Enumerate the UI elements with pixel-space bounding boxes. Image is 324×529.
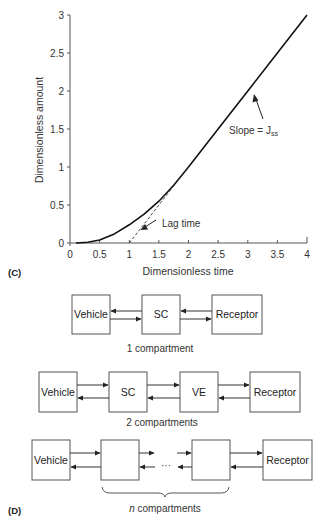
figure-canvas: 0 0.5 1 1.5 2 2.5 3 0 0.5 1 1.5 2 2.5 <box>0 0 324 529</box>
compartment-n-box <box>192 440 230 480</box>
sc-label: SC <box>154 308 169 320</box>
lag-time-label: Lag time <box>162 218 201 229</box>
lag-time-asymptote <box>129 167 188 243</box>
vehicle-label: Vehicle <box>41 386 75 398</box>
slope-label: Slope = Jss <box>229 125 278 137</box>
slope-annotation: Slope = Jss <box>229 94 278 137</box>
y-tick-label: 0.5 <box>50 200 64 211</box>
compartment-1-box <box>101 440 139 480</box>
caption-2-compartments: 2 compartments <box>126 417 198 428</box>
x-tick-label: 2.5 <box>211 249 225 260</box>
x-tick-label: 0.5 <box>93 249 107 260</box>
y-tick-label: 3 <box>58 10 64 21</box>
diagram-row-1-compartment: Vehicle SC Receptor 1 compartment <box>72 295 262 354</box>
lag-time-annotation: Lag time <box>141 218 201 230</box>
ve-label: VE <box>192 386 206 398</box>
x-tick-label: 2 <box>186 249 192 260</box>
y-tick-label: 2.5 <box>50 48 64 59</box>
panel-label-d: (D) <box>8 505 21 516</box>
y-tick-label: 0 <box>58 238 64 249</box>
sc-label: SC <box>121 386 136 398</box>
x-tick-labels: 0 0.5 1 1.5 2 2.5 3 3.5 4 <box>67 249 310 260</box>
vehicle-label: Vehicle <box>34 454 68 466</box>
x-tick-label: 4 <box>304 249 310 260</box>
brace <box>102 487 229 497</box>
y-tick-label: 1.5 <box>50 124 64 135</box>
receptor-label: Receptor <box>266 454 309 466</box>
x-axis-title: Dimensionless time <box>142 265 233 277</box>
x-tick-label: 3 <box>245 249 251 260</box>
diagram-row-n-compartments: Vehicle Receptor ··· n compartments <box>32 440 312 514</box>
x-tick-label: 1 <box>127 249 133 260</box>
receptor-label: Receptor <box>254 386 297 398</box>
x-tick-label: 0 <box>67 249 73 260</box>
receptor-label: Receptor <box>216 308 259 320</box>
panel-label-c: (C) <box>8 267 21 278</box>
ellipsis: ··· <box>161 460 171 471</box>
y-tick-labels: 0 0.5 1 1.5 2 2.5 3 <box>50 10 64 249</box>
chart-panel-c: 0 0.5 1 1.5 2 2.5 3 0 0.5 1 1.5 2 2.5 <box>8 10 310 278</box>
vehicle-label: Vehicle <box>74 308 108 320</box>
caption-n-compartments: n compartments <box>129 503 201 514</box>
y-tick-label: 2 <box>58 86 64 97</box>
x-tick-label: 1.5 <box>152 249 166 260</box>
y-axis-title: Dimensionless amount <box>33 77 45 183</box>
y-tick-label: 1 <box>58 162 64 173</box>
caption-1-compartment: 1 compartment <box>127 343 194 354</box>
diagram-row-2-compartments: Vehicle SC VE Receptor 2 compartments <box>39 372 300 428</box>
x-tick-label: 3.5 <box>270 249 284 260</box>
cumulative-curve <box>76 15 307 243</box>
